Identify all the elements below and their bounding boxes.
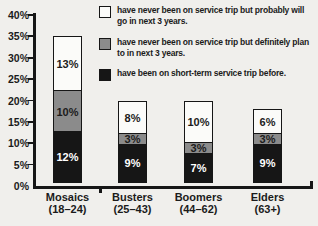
segment-value-label: 9% [125,157,141,169]
legend-item-definitely: have never been on service trip but defi… [99,37,313,58]
segment-black: 7% [184,153,213,183]
bar-mosaics: 13%10%12% [53,36,82,188]
segment-value-label: 10% [56,106,78,118]
y-axis-label: 35% [0,30,29,42]
segment-value-label: 6% [260,116,276,128]
segment-value-label: 7% [191,162,207,174]
bar-elders: 6%3%9% [253,109,282,188]
y-axis-label: 15% [0,116,29,128]
segment-gray: 10% [53,90,82,133]
segment-white: 6% [253,109,282,135]
category-name: Elders [226,192,310,204]
y-axis-line [33,13,36,189]
y-axis-tick [28,14,33,16]
segment-white: 10% [184,101,213,144]
stacked-bar-chart: have never been on service trip but prob… [0,0,318,226]
y-axis-label: 20% [0,95,29,107]
segment-value-label: 12% [56,151,78,163]
y-axis-label: 5% [0,159,29,171]
segment-white: 8% [118,101,147,135]
bar-busters: 8%3%9% [118,101,147,189]
y-axis-tick [28,100,33,102]
segment-value-label: 13% [56,58,78,70]
legend-item-probably: have never been on service trip but prob… [99,5,313,26]
legend-label: have been on short-term service trip bef… [117,68,313,79]
y-axis-tick [28,57,33,59]
legend-swatch-gray-icon [99,38,111,50]
y-axis-label: 40% [0,9,29,21]
segment-value-label: 10% [187,116,209,128]
y-axis-tick [28,35,33,37]
y-axis-tick [28,164,33,166]
legend-item-been-before: have been on short-term service trip bef… [99,68,313,79]
segment-value-label: 9% [260,157,276,169]
bar-boomers: 10%3%7% [184,101,213,189]
category-age-range: (63+) [226,204,310,216]
segment-black: 9% [118,144,147,182]
y-axis-label: 25% [0,73,29,85]
y-axis-label: 0% [0,180,29,192]
y-axis-tick [28,121,33,123]
y-axis-label: 10% [0,137,29,149]
segment-black: 12% [53,131,82,182]
x-axis-end-tick [310,181,313,187]
category-label-elders: Elders(63+) [226,192,310,215]
legend-label: have never been on service trip but defi… [117,37,313,58]
legend-swatch-white-icon [99,6,111,18]
y-axis-tick [28,78,33,80]
segment-white: 13% [53,36,82,92]
segment-value-label: 8% [125,112,141,124]
y-axis-tick [28,142,33,144]
segment-black: 9% [253,144,282,182]
y-axis-label: 30% [0,52,29,64]
legend-label: have never been on service trip but prob… [117,5,313,26]
legend-swatch-black-icon [99,69,111,81]
